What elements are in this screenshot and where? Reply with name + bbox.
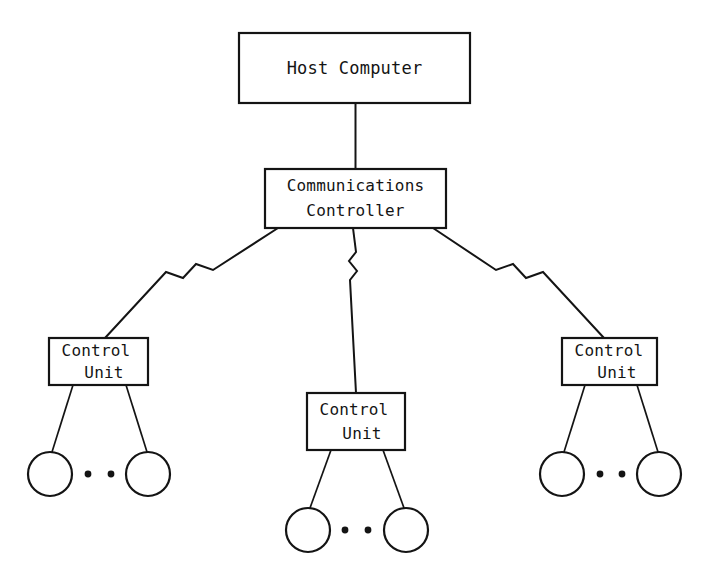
ellipsis-dot (342, 527, 349, 534)
terminal-circle[interactable] (384, 508, 428, 552)
ellipsis-dot (597, 471, 604, 478)
topology-diagram: Host Computer Communications Controller … (0, 0, 712, 583)
host-computer-label: Host Computer (287, 58, 423, 78)
terminal-group-right (540, 452, 681, 496)
link-center-control-unit-to-terminal-2 (383, 450, 404, 508)
control-unit-left-label-line2: Unit (84, 363, 123, 382)
ellipsis-dot (85, 471, 92, 478)
terminal-circle[interactable] (540, 452, 584, 496)
terminal-circle[interactable] (28, 452, 72, 496)
communications-controller-label-line2: Controller (306, 201, 404, 220)
node-host-computer[interactable]: Host Computer (239, 33, 470, 103)
diagram-canvas: Host Computer Communications Controller … (0, 0, 712, 583)
link-controller-to-center-control-unit (349, 228, 357, 393)
node-control-unit-left[interactable]: Control Unit (49, 338, 148, 385)
link-left-control-unit-to-terminal-2 (126, 385, 147, 452)
terminal-group-center (286, 508, 428, 552)
control-unit-center-label-line1: Control (320, 400, 389, 419)
link-controller-to-left-control-unit (105, 228, 278, 338)
ellipsis-dot (108, 471, 115, 478)
terminal-circle[interactable] (286, 508, 330, 552)
terminal-group-left (28, 452, 170, 496)
link-right-control-unit-to-terminal-1 (564, 385, 585, 452)
control-unit-left-label-line1: Control (62, 341, 131, 360)
terminal-circle[interactable] (637, 452, 681, 496)
terminal-circle[interactable] (126, 452, 170, 496)
control-unit-right-label-line2: Unit (597, 363, 636, 382)
control-unit-center-label-line2: Unit (342, 424, 381, 443)
ellipsis-dot (619, 471, 626, 478)
communications-controller-label-line1: Communications (287, 176, 425, 195)
node-control-unit-center[interactable]: Control Unit (307, 393, 405, 450)
node-communications-controller[interactable]: Communications Controller (265, 169, 446, 228)
link-controller-to-right-control-unit (433, 228, 604, 338)
ellipsis-dot (365, 527, 372, 534)
link-left-control-unit-to-terminal-1 (52, 385, 73, 452)
control-unit-right-label-line1: Control (575, 341, 644, 360)
node-control-unit-right[interactable]: Control Unit (562, 338, 657, 385)
link-center-control-unit-to-terminal-1 (310, 450, 331, 508)
link-right-control-unit-to-terminal-2 (637, 385, 658, 452)
